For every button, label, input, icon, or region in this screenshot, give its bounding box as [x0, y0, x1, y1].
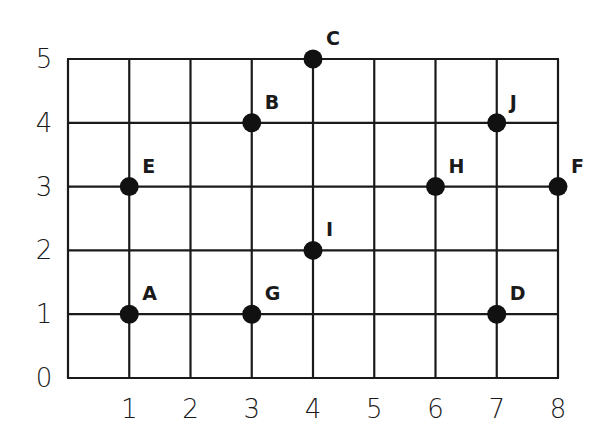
point-marker — [426, 177, 445, 196]
point-h: H — [426, 155, 464, 197]
y-tick-label: 5 — [36, 44, 53, 74]
point-label: B — [265, 91, 279, 113]
point-label: D — [510, 282, 526, 304]
y-tick-label: 2 — [36, 235, 53, 265]
coordinate-grid-chart: 012345 12345678 ABCDEFGHIJ — [0, 0, 606, 435]
x-tick-label: 8 — [550, 394, 567, 424]
point-e: E — [120, 155, 155, 197]
point-label: H — [449, 155, 465, 177]
x-tick-label: 7 — [488, 394, 505, 424]
point-label: J — [508, 91, 517, 113]
point-d: D — [487, 282, 525, 324]
x-tick-label: 1 — [121, 394, 138, 424]
x-tick-label: 4 — [305, 394, 322, 424]
point-j: J — [487, 91, 517, 133]
y-tick-label: 0 — [36, 363, 53, 393]
data-points: ABCDEFGHIJ — [120, 27, 584, 324]
point-marker — [242, 113, 261, 132]
point-marker — [304, 50, 323, 69]
point-marker — [549, 177, 568, 196]
point-marker — [487, 305, 506, 324]
point-label: F — [571, 155, 584, 177]
point-label: C — [326, 27, 340, 49]
y-axis-tick-labels: 012345 — [36, 44, 53, 393]
point-label: I — [326, 218, 333, 240]
point-a: A — [120, 282, 158, 324]
point-label: A — [142, 282, 157, 304]
point-f: F — [549, 155, 584, 197]
point-i: I — [304, 218, 334, 260]
point-label: E — [142, 155, 155, 177]
x-tick-label: 3 — [243, 394, 260, 424]
point-label: G — [265, 282, 281, 304]
x-axis-tick-labels: 12345678 — [121, 394, 566, 424]
point-marker — [487, 113, 506, 132]
point-g: G — [242, 282, 280, 324]
x-tick-label: 6 — [427, 394, 444, 424]
x-tick-label: 2 — [182, 394, 199, 424]
point-marker — [120, 177, 139, 196]
x-tick-label: 5 — [366, 394, 383, 424]
y-tick-label: 3 — [36, 172, 53, 202]
grid-lines — [67, 59, 559, 378]
point-marker — [120, 305, 139, 324]
y-tick-label: 1 — [36, 299, 53, 329]
point-b: B — [242, 91, 279, 133]
point-marker — [304, 241, 323, 260]
y-tick-label: 4 — [36, 108, 53, 138]
point-marker — [242, 305, 261, 324]
point-c: C — [304, 27, 340, 69]
